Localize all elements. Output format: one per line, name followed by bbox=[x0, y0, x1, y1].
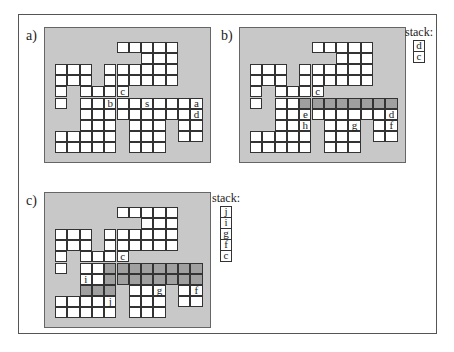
maze-cell bbox=[129, 263, 141, 274]
maze-cell bbox=[80, 98, 92, 109]
maze-cell bbox=[55, 98, 67, 109]
maze-cell bbox=[104, 86, 116, 97]
maze-cell bbox=[287, 142, 299, 153]
maze-cell bbox=[104, 75, 116, 86]
maze-cell bbox=[287, 98, 299, 109]
maze-cell bbox=[104, 274, 116, 285]
maze-cell bbox=[361, 64, 373, 75]
maze-cell bbox=[117, 64, 129, 75]
maze-cell bbox=[250, 86, 262, 97]
panel-c-label: c) bbox=[26, 193, 37, 209]
maze-cell bbox=[178, 274, 190, 285]
maze-cell bbox=[92, 120, 104, 131]
maze-cell bbox=[129, 109, 141, 120]
maze-cell bbox=[348, 42, 360, 53]
maze-cell-labeled: b bbox=[104, 98, 116, 109]
maze-cell bbox=[166, 98, 178, 109]
maze-cell bbox=[67, 64, 79, 75]
maze-cell bbox=[178, 263, 190, 274]
maze-cell bbox=[92, 251, 104, 262]
maze-cell bbox=[166, 263, 178, 274]
maze-cell bbox=[153, 229, 165, 240]
maze-cell bbox=[250, 142, 262, 153]
maze-cell bbox=[129, 142, 141, 153]
maze-cell bbox=[178, 285, 190, 296]
maze-cell bbox=[129, 240, 141, 251]
maze-cell bbox=[153, 98, 165, 109]
maze-cell bbox=[104, 240, 116, 251]
maze-cell bbox=[153, 64, 165, 75]
maze-cell bbox=[299, 142, 311, 153]
maze-cell bbox=[141, 142, 153, 153]
maze-cell-labeled: c bbox=[117, 251, 129, 262]
maze-cell bbox=[153, 53, 165, 64]
maze-cell bbox=[373, 120, 385, 131]
maze-cell bbox=[348, 142, 360, 153]
maze-cell bbox=[348, 53, 360, 64]
maze-cell bbox=[190, 120, 202, 131]
maze-cell bbox=[129, 75, 141, 86]
maze-cell bbox=[324, 142, 336, 153]
maze-cell bbox=[190, 296, 202, 307]
maze-cell bbox=[250, 98, 262, 109]
maze-cell bbox=[80, 285, 92, 296]
maze-cell bbox=[80, 120, 92, 131]
maze-cell bbox=[104, 120, 116, 131]
maze-cell bbox=[141, 240, 153, 251]
maze-cell bbox=[117, 274, 129, 285]
maze-cell bbox=[336, 75, 348, 86]
maze-cell bbox=[178, 98, 190, 109]
maze-cell bbox=[336, 142, 348, 153]
maze-cell bbox=[275, 142, 287, 153]
maze-cell bbox=[67, 296, 79, 307]
maze-cell bbox=[262, 142, 274, 153]
maze-cell bbox=[80, 240, 92, 251]
maze-cell bbox=[141, 131, 153, 142]
maze-cell bbox=[141, 307, 153, 318]
maze-cell bbox=[67, 131, 79, 142]
maze-board-b: cedhgf bbox=[239, 27, 406, 163]
maze-cell bbox=[117, 42, 129, 53]
maze-cell bbox=[80, 307, 92, 318]
maze-cell bbox=[153, 42, 165, 53]
maze-cell bbox=[299, 131, 311, 142]
maze-cell bbox=[129, 296, 141, 307]
maze-cell bbox=[275, 98, 287, 109]
maze-cell bbox=[166, 274, 178, 285]
maze-cell bbox=[141, 75, 153, 86]
maze-cell bbox=[55, 251, 67, 262]
maze-cell bbox=[361, 53, 373, 64]
maze-cell-labeled: i bbox=[80, 274, 92, 285]
maze-cell bbox=[361, 98, 373, 109]
maze-cell bbox=[287, 120, 299, 131]
maze-cell bbox=[129, 131, 141, 142]
maze-cell-labeled: g bbox=[153, 285, 165, 296]
maze-cell bbox=[262, 75, 274, 86]
maze-cell bbox=[324, 131, 336, 142]
stack-b: dc bbox=[413, 40, 425, 63]
maze-cell bbox=[153, 109, 165, 120]
maze-cell-labeled: d bbox=[190, 109, 202, 120]
maze-cell bbox=[324, 64, 336, 75]
maze-cell bbox=[141, 53, 153, 64]
maze-cell bbox=[92, 274, 104, 285]
maze-cell bbox=[80, 229, 92, 240]
maze-cell bbox=[104, 142, 116, 153]
maze-cell bbox=[55, 263, 67, 274]
maze-cell bbox=[166, 229, 178, 240]
maze-cell bbox=[117, 98, 129, 109]
maze-cell bbox=[385, 98, 397, 109]
maze-cell bbox=[141, 64, 153, 75]
maze-cell bbox=[324, 98, 336, 109]
panel-b-label: b) bbox=[221, 28, 233, 44]
maze-cell bbox=[299, 64, 311, 75]
maze-cell bbox=[166, 218, 178, 229]
maze-cell bbox=[92, 98, 104, 109]
maze-cell bbox=[141, 229, 153, 240]
maze-cell bbox=[80, 75, 92, 86]
maze-cell bbox=[178, 296, 190, 307]
maze-cell bbox=[166, 64, 178, 75]
maze-cell bbox=[178, 131, 190, 142]
maze-cell bbox=[80, 64, 92, 75]
maze-cell bbox=[80, 263, 92, 274]
